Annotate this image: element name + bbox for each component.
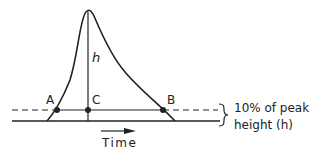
label-time: Time [101, 136, 137, 150]
label-h: h [92, 50, 100, 65]
point-c [85, 107, 91, 113]
peak-diagram: h A C B Time 10% of peak height (h) [0, 0, 321, 155]
label-a: A [46, 93, 55, 107]
annotation-line1: 10% of peak [234, 101, 309, 115]
point-a [54, 107, 60, 113]
point-b [160, 107, 166, 113]
annotation-line2: height (h) [234, 118, 293, 132]
time-arrow-head-icon [124, 128, 136, 134]
brace-icon [219, 104, 228, 126]
peak-curve [47, 10, 175, 121]
label-c: C [92, 93, 100, 107]
label-b: B [167, 93, 175, 107]
